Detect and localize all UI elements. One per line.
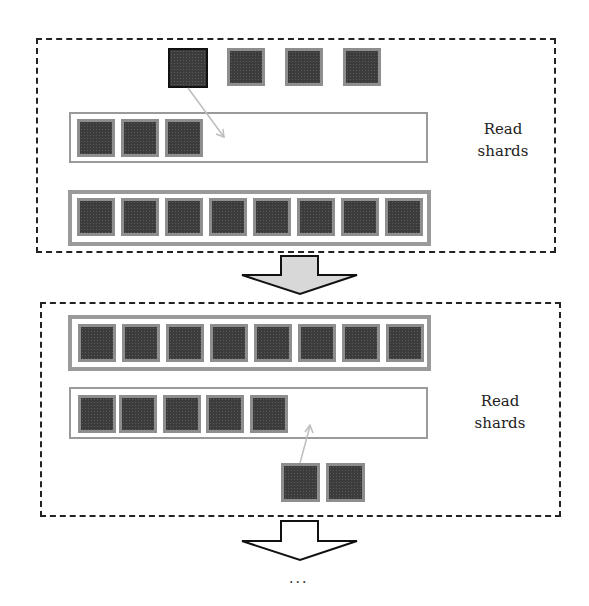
move-arrow-icon — [300, 425, 313, 463]
move-arrow-icon — [188, 88, 224, 137]
down-arrow-icon — [242, 256, 357, 294]
continuation-ellipsis: ... — [289, 570, 308, 586]
arrows-layer — [0, 0, 589, 606]
down-arrow-icon — [242, 521, 357, 560]
